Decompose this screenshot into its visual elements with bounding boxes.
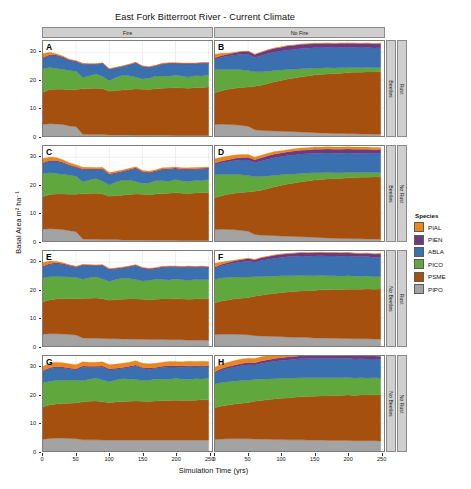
row-strip-label: No Beetles xyxy=(388,391,394,416)
legend-label-psme: PSME xyxy=(428,273,446,280)
legend-title: Species xyxy=(415,212,470,219)
panel-f: F xyxy=(214,250,385,347)
panel-letter-a: A xyxy=(46,42,52,52)
panel-c: C xyxy=(42,145,213,242)
legend-item-abla[interactable]: ABLA xyxy=(414,246,470,258)
legend-item-psme[interactable]: PSME xyxy=(414,271,470,283)
x-axis-label: Simulation Time (yrs) xyxy=(42,466,385,475)
legend-label-pipo: PIPO xyxy=(428,286,443,293)
y-tick-mark xyxy=(39,185,42,186)
legend-label-pico: PICO xyxy=(428,261,443,268)
legend-swatch-pial xyxy=(414,222,424,232)
panel-letter-f: F xyxy=(218,252,223,262)
x-tick-label: 0 xyxy=(205,456,223,462)
y-tick-mark xyxy=(39,423,42,424)
legend-swatch-pipo xyxy=(414,284,424,294)
area-psme xyxy=(43,400,209,440)
panel-g: G xyxy=(42,355,213,452)
panel-letter-e: E xyxy=(46,252,52,262)
y-tick-label: 30 xyxy=(20,153,36,159)
legend-label-pien: PIEN xyxy=(428,236,442,243)
y-tick-label: 0 xyxy=(20,344,36,350)
x-tick-label: 250 xyxy=(373,456,391,462)
y-tick-mark xyxy=(39,261,42,262)
y-tick-mark xyxy=(39,366,42,367)
y-tick-mark xyxy=(39,452,42,453)
row-strip-label: Beetles xyxy=(388,80,394,97)
y-tick-label: 20 xyxy=(20,287,36,293)
y-tick-label: 10 xyxy=(20,420,36,426)
legend-swatch-pien xyxy=(414,235,424,245)
x-tick-label: 100 xyxy=(272,456,290,462)
x-tick-label: 150 xyxy=(306,456,324,462)
y-tick-label: 20 xyxy=(20,392,36,398)
y-tick-mark xyxy=(39,156,42,157)
row-strip-inner-2: No Beetles xyxy=(386,250,396,347)
panel-letter-g: G xyxy=(46,357,53,367)
x-tick-label: 200 xyxy=(339,456,357,462)
y-tick-mark xyxy=(39,80,42,81)
y-tick-mark xyxy=(39,137,42,138)
y-tick-mark xyxy=(39,347,42,348)
legend-label-pial: PIAL xyxy=(428,224,441,231)
y-tick-label: 0 xyxy=(20,134,36,140)
legend: Species PIALPIENABLAPICOPSMEPIPO xyxy=(414,212,470,295)
y-tick-label: 30 xyxy=(20,363,36,369)
figure-root: East Fork Bitterroot River - Current Cli… xyxy=(0,0,471,489)
panel-letter-b: B xyxy=(218,42,224,52)
row-strip-outer-1: No Rust xyxy=(397,145,407,242)
legend-swatch-pico xyxy=(414,259,424,269)
y-tick-mark xyxy=(39,51,42,52)
row-strip-inner-1: Beetles xyxy=(386,145,396,242)
panel-h: H xyxy=(214,355,385,452)
row-strip-label: No Rust xyxy=(399,184,405,203)
y-tick-label: 20 xyxy=(20,77,36,83)
y-tick-mark xyxy=(39,242,42,243)
panel-e: E xyxy=(42,250,213,347)
x-tick-label: 50 xyxy=(239,456,257,462)
legend-item-pipo[interactable]: PIPO xyxy=(414,283,470,295)
y-tick-label: 0 xyxy=(20,449,36,455)
y-tick-mark xyxy=(39,318,42,319)
legend-label-abla: ABLA xyxy=(428,248,444,255)
panel-b: B xyxy=(214,40,385,137)
x-tick-label: 200 xyxy=(167,456,185,462)
x-tick-label: 0 xyxy=(33,456,51,462)
legend-swatch-abla xyxy=(414,247,424,257)
legend-item-pien[interactable]: PIEN xyxy=(414,233,470,245)
y-tick-label: 30 xyxy=(20,48,36,54)
legend-item-pial[interactable]: PIAL xyxy=(414,221,470,233)
y-tick-label: 10 xyxy=(20,315,36,321)
y-tick-mark xyxy=(39,395,42,396)
row-strip-outer-0: Rust xyxy=(397,40,407,137)
legend-item-pico[interactable]: PICO xyxy=(414,258,470,270)
column-strip-no-fire-label: No Fire xyxy=(291,30,309,36)
row-strip-label: Beetles xyxy=(388,185,394,202)
row-strip-outer-3: No Rust xyxy=(397,355,407,452)
x-tick-label: 150 xyxy=(134,456,152,462)
y-tick-label: 10 xyxy=(20,105,36,111)
y-tick-mark xyxy=(39,108,42,109)
x-tick-label: 50 xyxy=(67,456,85,462)
figure-title: East Fork Bitterroot River - Current Cli… xyxy=(40,12,370,22)
legend-items: PIALPIENABLAPICOPSMEPIPO xyxy=(414,221,470,295)
column-strip-fire: Fire xyxy=(42,27,213,38)
column-strip-no-fire: No Fire xyxy=(214,27,385,38)
row-strip-inner-3: No Beetles xyxy=(386,355,396,452)
x-tick-label: 100 xyxy=(100,456,118,462)
area-pico xyxy=(43,276,209,301)
y-tick-mark xyxy=(39,213,42,214)
y-tick-mark xyxy=(39,290,42,291)
panel-a: A xyxy=(42,40,213,137)
panel-letter-d: D xyxy=(218,147,224,157)
legend-swatch-psme xyxy=(414,272,424,282)
row-strip-label: No Rust xyxy=(399,394,405,413)
row-strip-label: Rust xyxy=(399,83,405,94)
y-axis-label: Basal Area m² ha⁻¹ xyxy=(14,168,23,278)
panel-letter-h: H xyxy=(218,357,224,367)
panel-letter-c: C xyxy=(46,147,52,157)
row-strip-label: Rust xyxy=(399,293,405,304)
row-strip-outer-2: Rust xyxy=(397,250,407,347)
panel-d: D xyxy=(214,145,385,242)
row-strip-inner-0: Beetles xyxy=(386,40,396,137)
